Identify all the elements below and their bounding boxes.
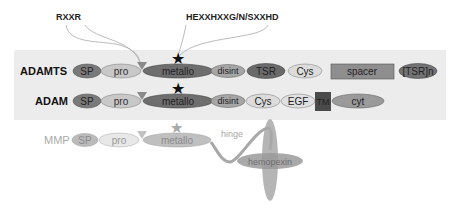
metallo-label: metallo xyxy=(162,66,195,77)
metallo-label: metallo xyxy=(161,135,194,146)
zinc-motif-label: HEXXHXXG/N/SXXHD xyxy=(186,12,279,22)
adamts-label: ADAMTS xyxy=(20,65,67,77)
cys-label: Cys xyxy=(254,96,271,107)
star-icon: ★ xyxy=(171,80,185,97)
tsr-label: TSR xyxy=(256,66,276,77)
highlight-band xyxy=(14,50,446,120)
hemopexin-label: hemopexin xyxy=(248,157,292,167)
sp-label: SP xyxy=(80,96,94,107)
disint-label: disint xyxy=(217,66,239,76)
mmp-label: MMP xyxy=(44,134,70,146)
mmp-row: SP pro metallo ★ hinge hemopexin xyxy=(72,119,303,201)
metallo-label: metallo xyxy=(162,96,195,107)
adam-label: ADAM xyxy=(35,95,68,107)
sp-label: SP xyxy=(80,66,94,77)
rxxr-label: RXXR xyxy=(56,12,82,22)
star-icon: ★ xyxy=(171,50,185,67)
domain-diagram: RXXR HEXXHXXG/N/SXXHD ADAMTS SP pro meta… xyxy=(0,0,458,210)
tm-label: TM xyxy=(317,97,330,107)
egf-label: EGF xyxy=(288,96,309,107)
pro-label: pro xyxy=(114,66,129,77)
cys-label: Cys xyxy=(296,66,313,77)
cyt-label: cyt xyxy=(352,96,365,107)
spacer-label: spacer xyxy=(347,66,378,77)
pro-label: pro xyxy=(114,96,129,107)
tsr-repeat-label: [TSR]n xyxy=(402,66,433,77)
disint-label: disint xyxy=(217,96,239,106)
star-icon: ★ xyxy=(170,119,183,136)
hinge-label: hinge xyxy=(221,129,243,139)
sp-label: SP xyxy=(78,135,92,146)
pro-label: pro xyxy=(112,135,127,146)
